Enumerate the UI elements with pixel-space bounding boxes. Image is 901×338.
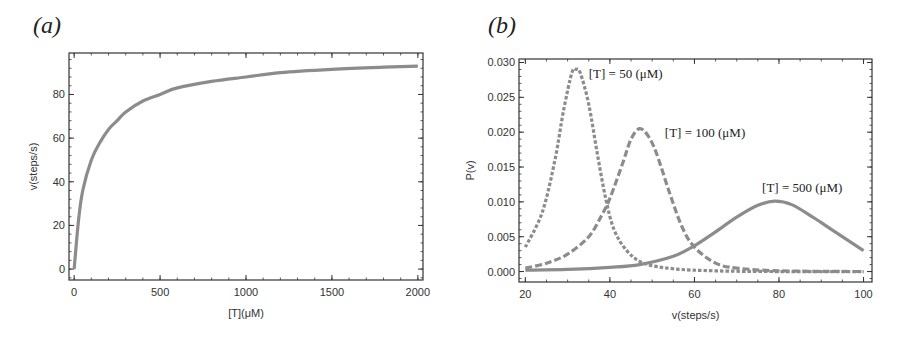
y-tick-label: 0.020 [487,126,515,138]
x-tick-label: 20 [519,288,531,300]
y-axis-label: P(v) [464,160,476,180]
x-tick-label: 1000 [234,286,258,298]
y-tick-label: 40 [53,176,65,188]
y-tick-label: 0.000 [487,266,515,278]
chart-a: 0500100015002000020406080[T](μM)v(steps/… [27,53,430,319]
y-tick-label: 0.025 [487,91,515,103]
x-tick-label: 80 [773,288,785,300]
x-tick-label: 500 [151,286,169,298]
x-axis-label: [T](μM) [228,307,264,319]
x-tick-label: 60 [688,288,700,300]
y-tick-label: 80 [53,88,65,100]
y-tick-label: 0.005 [487,231,515,243]
curve-annotation: [T] = 500 (μM) [762,180,842,195]
x-tick-label: 0 [71,286,77,298]
y-tick-label: 0.030 [487,56,515,68]
x-tick-label: 40 [604,288,616,300]
curve-annotation: [T] = 50 (μM) [589,66,663,81]
x-tick-label: 1500 [320,286,344,298]
plot-frame [519,59,872,282]
series-line [525,201,863,270]
y-tick-label: 0 [59,263,65,275]
y-tick-label: 60 [53,132,65,144]
y-axis-label: v(steps/s) [27,143,39,191]
y-tick-label: 0.010 [487,196,515,208]
x-axis-label: v(steps/s) [672,309,720,321]
y-tick-label: 0.015 [487,161,515,173]
series-line [525,69,863,272]
figure-canvas: 0500100015002000020406080[T](μM)v(steps/… [0,0,901,338]
y-tick-label: 20 [53,219,65,231]
x-tick-label: 2000 [406,286,430,298]
series-line [525,129,863,272]
x-tick-label: 100 [854,288,872,300]
curve-annotation: [T] = 100 (μM) [665,125,745,140]
plot-frame [69,53,423,280]
chart-b: 204060801000.0000.0050.0100.0150.0200.02… [464,56,873,321]
series-line [74,66,418,269]
